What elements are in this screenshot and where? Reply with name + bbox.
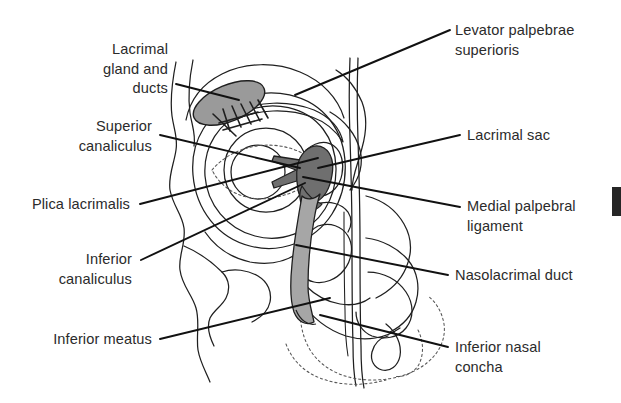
lacrimal-gland-group (187, 72, 271, 136)
leader-nasolacrimal-duct (296, 245, 448, 275)
label-nasolacrimal-duct: Nasolacrimal duct (455, 266, 621, 286)
lacrimal-gland-body (187, 72, 271, 135)
leader-inferior-canaliculus (141, 183, 305, 260)
lateral-orbital-wall (330, 112, 361, 190)
lacrimal-apparatus-figure: Lacrimal gland and ducts Superior canali… (0, 0, 621, 403)
label-levator-palpebrae-superioris: Levator palpebrae superioris (455, 21, 621, 60)
label-inferior-meatus: Inferior meatus (0, 330, 152, 350)
label-superior-canaliculus: Superior canaliculus (0, 117, 152, 156)
label-medial-palpebral-ligament: Medial palpebral ligament (467, 197, 621, 236)
label-inferior-nasal-concha: Inferior nasal concha (455, 338, 615, 377)
label-plica-lacrimalis: Plica lacrimalis (0, 195, 130, 215)
leader-inferior-nasal-concha (320, 315, 448, 347)
inferior-nasal-concha-right (356, 272, 412, 338)
label-lacrimal-gland-and-ducts: Lacrimal gland and ducts (8, 40, 168, 99)
leader-superior-canaliculus (160, 135, 300, 168)
nose-soft-tissue-lower (286, 344, 386, 384)
label-lacrimal-sac: Lacrimal sac (467, 126, 617, 146)
lacrimal-drainage-group (272, 146, 333, 325)
nasal-aperture-right (366, 196, 410, 298)
label-inferior-canaliculus: Inferior canaliculus (0, 250, 132, 289)
nasal-cavity-floor (300, 300, 400, 339)
thumb-index-tab (612, 187, 621, 216)
leader-levator-palpebrae-superioris (295, 30, 450, 95)
